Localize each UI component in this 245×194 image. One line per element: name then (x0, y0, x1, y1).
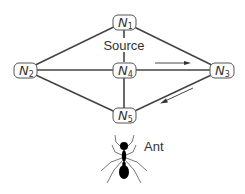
node-n3: N3 (210, 63, 234, 79)
ant-colony-graph-diagram: Source N1 N2 N4 N3 N5 (0, 0, 245, 194)
arrowhead-right-icon (184, 61, 191, 65)
node-n1: N1 (113, 15, 136, 31)
ant-icon (101, 135, 147, 183)
edge-n2-n5 (25, 70, 124, 116)
node-n5: N5 (113, 108, 136, 124)
ant-label: Ant (144, 139, 164, 154)
direction-arrows (155, 61, 193, 104)
edge-n5-n3 (124, 70, 222, 116)
node-n4: N4 (113, 63, 136, 79)
source-label: Source (103, 38, 144, 53)
node-n2: N2 (14, 63, 37, 79)
